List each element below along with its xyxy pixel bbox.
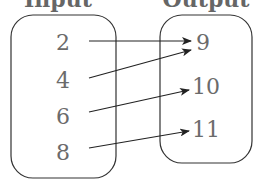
input-value: 8 [56,140,70,165]
output-value: 9 [196,30,210,55]
input-header: Input [24,0,93,12]
input-value: 4 [56,68,70,93]
mapping-diagram: Input Output 2 4 6 8 9 10 11 [0,0,253,180]
arrow-4-to-9 [89,50,191,78]
input-value: 6 [56,104,70,129]
output-value: 11 [192,117,220,142]
arrow-8-to-11 [89,131,189,148]
arrow-6-to-10 [89,90,189,112]
input-value: 2 [56,30,70,55]
output-header: Output [163,0,251,12]
output-value: 10 [192,74,220,99]
